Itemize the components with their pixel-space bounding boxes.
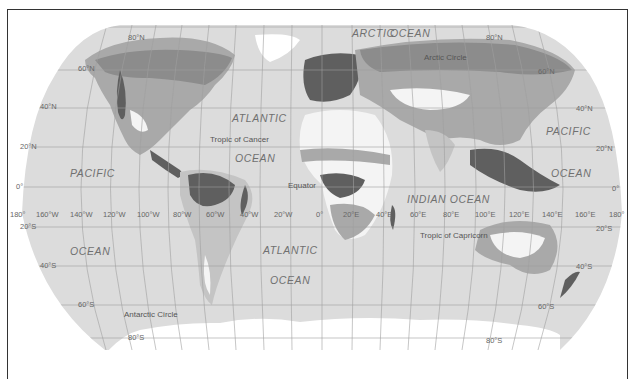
lat-label-left-40n: 40°N bbox=[40, 103, 57, 111]
lat-label-left-80n: 80°N bbox=[128, 34, 145, 42]
label-atlantic-north-2: OCEAN bbox=[235, 153, 275, 164]
label-pacific-west-1: PACIFIC bbox=[70, 168, 115, 179]
lon-label-60e: 60°E bbox=[410, 211, 426, 219]
lon-label-160w: 160°W bbox=[36, 211, 59, 219]
lon-label-180e: 180° bbox=[609, 211, 625, 219]
lon-label-80e: 80°E bbox=[443, 211, 459, 219]
lat-label-left-60s: 60°S bbox=[78, 301, 94, 309]
label-antarctic-circle: Antarctic Circle bbox=[124, 311, 178, 319]
label-pacific-east-1: PACIFIC bbox=[546, 126, 591, 137]
lon-label-100w: 100°W bbox=[137, 211, 160, 219]
label-arctic-circle: Arctic Circle bbox=[424, 54, 467, 62]
lon-label-180w: 180° bbox=[10, 211, 26, 219]
label-indian-ocean: INDIAN OCEAN bbox=[407, 194, 490, 205]
lat-label-left-60n: 60°N bbox=[78, 65, 95, 73]
lon-label-140w: 140°W bbox=[70, 211, 93, 219]
label-atlantic-south-1: ATLANTIC bbox=[263, 245, 318, 256]
lon-label-60w: 60°W bbox=[206, 211, 224, 219]
lat-label-right-40n: 40°N bbox=[576, 105, 593, 113]
label-atlantic-north-1: ATLANTIC bbox=[232, 113, 287, 124]
label-atlantic-south-2: OCEAN bbox=[270, 275, 310, 286]
lat-label-right-20n: 20°N bbox=[596, 145, 613, 153]
lat-label-left-0: 0° bbox=[16, 183, 23, 191]
label-arctic-ocean-1: ARCTIC bbox=[352, 28, 395, 39]
label-pacific-east-2: OCEAN bbox=[551, 168, 591, 179]
lat-label-left-40s: 40°S bbox=[40, 262, 56, 270]
lat-label-right-80n: 80°N bbox=[486, 34, 503, 42]
lon-label-0: 0° bbox=[316, 211, 323, 219]
lon-label-80w: 80°W bbox=[173, 211, 191, 219]
lat-label-right-40s: 40°S bbox=[576, 263, 592, 271]
lon-label-20e: 20°E bbox=[343, 211, 359, 219]
label-tropic-of-cancer: Tropic of Cancer bbox=[210, 136, 269, 144]
lon-label-40w: 40°W bbox=[240, 211, 258, 219]
lat-label-left-20s: 20°S bbox=[20, 223, 36, 231]
lat-label-right-80s: 80°S bbox=[486, 337, 502, 345]
lon-label-120e: 120°E bbox=[509, 211, 530, 219]
label-tropic-of-capricorn: Tropic of Capricorn bbox=[420, 232, 488, 240]
lon-label-160e: 160°E bbox=[575, 211, 596, 219]
lat-label-left-80s: 80°S bbox=[128, 334, 144, 342]
lon-label-40e: 40°E bbox=[376, 211, 392, 219]
lat-label-right-20s: 20°S bbox=[596, 225, 612, 233]
lon-label-140e: 140°E bbox=[542, 211, 563, 219]
lon-label-20w: 20°W bbox=[274, 211, 292, 219]
lon-label-120w: 120°W bbox=[103, 211, 126, 219]
label-arctic-ocean-2: OCEAN bbox=[390, 28, 430, 39]
label-pacific-west-2: OCEAN bbox=[70, 246, 110, 257]
lat-label-right-0: 0° bbox=[612, 185, 619, 193]
label-equator: Equator bbox=[288, 182, 316, 190]
lat-label-left-20n: 20°N bbox=[20, 143, 37, 151]
lon-label-100e: 100°E bbox=[475, 211, 496, 219]
lat-label-right-60n: 60°N bbox=[538, 68, 555, 76]
lat-label-right-60s: 60°S bbox=[538, 303, 554, 311]
